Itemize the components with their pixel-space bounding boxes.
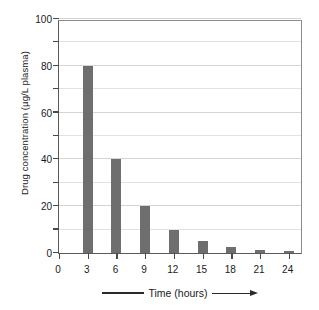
gridline <box>59 18 301 19</box>
x-axis-tick-label: 12 <box>158 265 188 275</box>
x-axis-tick <box>145 253 146 259</box>
x-axis-rule-left <box>102 292 144 293</box>
y-axis-tick-label: 60 <box>22 109 52 119</box>
x-axis-tick <box>116 253 117 259</box>
y-axis-tick <box>53 111 59 112</box>
y-axis-tick <box>53 182 59 183</box>
x-axis-tick-label: 6 <box>100 265 130 275</box>
x-axis-tick <box>289 253 290 259</box>
y-axis-tick <box>53 65 59 66</box>
y-axis-tick-label: 20 <box>22 202 52 212</box>
bar <box>83 66 93 253</box>
gridline <box>59 41 301 42</box>
y-axis-tick-label: 100 <box>22 15 52 25</box>
y-axis-tick-label: 0 <box>22 249 52 259</box>
gridline <box>59 112 301 113</box>
bar <box>198 241 208 253</box>
chart-figure: Drug concentration (µg/L plasma) 0204060… <box>0 0 319 310</box>
y-axis-tick <box>53 135 59 136</box>
x-axis-arrow-icon <box>212 290 258 297</box>
gridline <box>59 182 301 183</box>
gridline <box>59 158 301 159</box>
gridline <box>59 135 301 136</box>
x-axis-tick <box>231 253 232 259</box>
x-axis-title: Time (hours) <box>148 288 207 299</box>
x-axis-tick-label: 3 <box>72 265 102 275</box>
bar <box>111 159 121 253</box>
y-axis-tick-label: 40 <box>22 155 52 165</box>
x-axis-tick <box>260 253 261 259</box>
bar <box>140 206 150 253</box>
y-axis-tick <box>53 18 59 19</box>
gridline <box>59 229 301 230</box>
x-axis-title-row: Time (hours) <box>58 285 302 301</box>
x-axis-tick <box>88 253 89 259</box>
x-axis-tick-label: 15 <box>187 265 217 275</box>
gridline <box>59 88 301 89</box>
x-axis-tick <box>59 253 60 259</box>
y-axis-tick <box>53 41 59 42</box>
y-axis-tick <box>53 205 59 206</box>
x-axis-tick-label: 21 <box>244 265 274 275</box>
x-axis-tick-label: 18 <box>215 265 245 275</box>
y-axis-tick <box>53 158 59 159</box>
x-axis-tick-label: 24 <box>273 265 303 275</box>
x-axis-tick-label: 9 <box>129 265 159 275</box>
y-axis-tick <box>53 88 59 89</box>
y-axis-tick-label: 80 <box>22 62 52 72</box>
bar <box>169 230 179 253</box>
plot-area <box>58 20 302 254</box>
x-axis-tick-label: 0 <box>43 265 73 275</box>
y-axis-tick <box>53 228 59 229</box>
x-axis-tick <box>174 253 175 259</box>
gridline <box>59 205 301 206</box>
x-axis-tick <box>203 253 204 259</box>
gridline <box>59 65 301 66</box>
